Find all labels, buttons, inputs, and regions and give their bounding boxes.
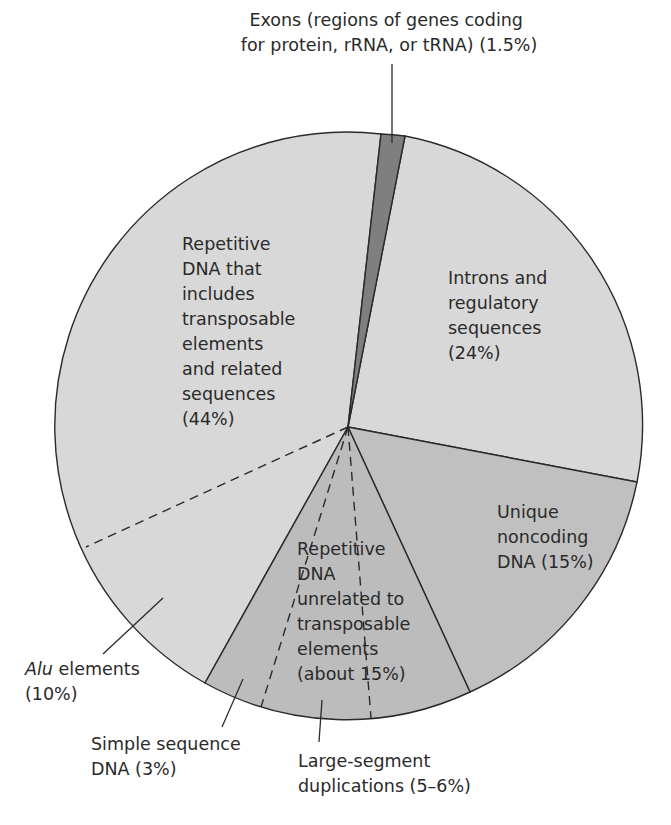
label-large-segment-duplications: Large-segment duplications (5–6%): [298, 751, 471, 796]
label-simple-sequence-dna: Simple sequence DNA (3%): [91, 734, 246, 779]
genome-composition-pie-chart: Exons (regions of genes coding for prote…: [0, 0, 671, 825]
label-exons: Exons (regions of genes coding for prote…: [241, 10, 538, 55]
label-alu-elements: Alu elements (10%): [24, 659, 145, 704]
